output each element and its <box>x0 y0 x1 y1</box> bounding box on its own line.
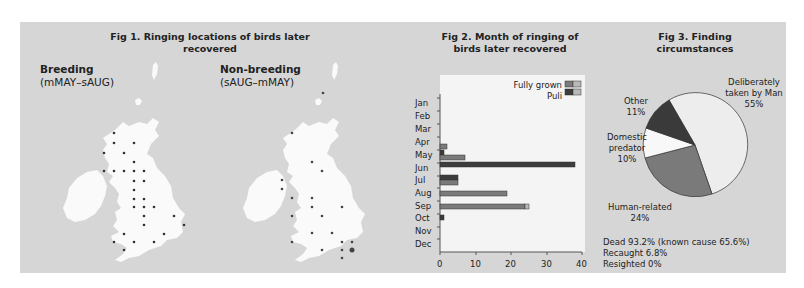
pie-label-domestic-line2: predator <box>603 143 651 154</box>
pie-label-other-pct: 11% <box>616 107 656 118</box>
pie-label-domestic-pct: 10% <box>603 154 651 165</box>
month-label: Jul <box>415 175 425 185</box>
month-label: Mar <box>415 124 431 134</box>
pie-label-human: Human-related 24% <box>603 202 677 224</box>
pie-label-deliberate-pct: 55% <box>718 99 790 110</box>
stat-recaught: Recaught 6.8% <box>603 248 750 259</box>
fig3-title: Fig 3. Finding circumstances <box>620 31 770 55</box>
tick-label: 20 <box>505 259 516 269</box>
legend-fully-grown: Fully grown <box>500 80 562 91</box>
tick-label: 10 <box>470 259 481 269</box>
legend-pulli: Puli <box>500 91 562 102</box>
recovery-stats: Dead 93.2% (known cause 65.6%) Recaught … <box>603 237 750 270</box>
month-label: Sep <box>415 201 431 211</box>
tick-label: 30 <box>541 259 552 269</box>
month-label: Nov <box>415 226 432 236</box>
tick-label: 40 <box>576 259 587 269</box>
month-label: May <box>415 150 433 160</box>
stat-dead: Dead 93.2% (known cause 65.6%) <box>603 237 750 248</box>
tick-label: 0 <box>437 259 442 269</box>
bar-legend: Fully grown Puli <box>500 80 562 102</box>
pie-label-other-line1: Other <box>616 96 656 107</box>
pie-label-human-pct: 24% <box>603 213 677 224</box>
month-label: Aug <box>415 188 432 198</box>
month-label: Oct <box>415 213 430 223</box>
pie-label-deliberate-line2: taken by Man <box>718 88 790 99</box>
fig2-title: Fig 2. Month of ringing of birds later r… <box>430 31 590 55</box>
breeding-map <box>55 60 195 270</box>
pie-label-domestic-line1: Domestic <box>603 132 651 143</box>
fig2-title-line2: birds later recovered <box>430 43 590 55</box>
stat-resighted: Resighted 0% <box>603 259 750 270</box>
pie-label-deliberate: Deliberately taken by Man 55% <box>718 77 790 110</box>
pie-label-other: Other 11% <box>616 96 656 118</box>
nonbreeding-map <box>235 60 375 270</box>
month-label: Jan <box>415 98 428 108</box>
fig1-title: Fig 1. Ringing locations of birds later … <box>90 31 330 55</box>
pie-label-domestic: Domestic predator 10% <box>603 132 651 165</box>
pie-label-human-line1: Human-related <box>603 202 677 213</box>
month-label: Apr <box>415 137 430 147</box>
month-label: Dec <box>415 239 431 249</box>
month-label: Feb <box>415 111 430 121</box>
pie-label-deliberate-line1: Deliberately <box>718 77 790 88</box>
month-label: Jun <box>415 163 428 173</box>
fig2-title-line1: Fig 2. Month of ringing of <box>430 31 590 43</box>
